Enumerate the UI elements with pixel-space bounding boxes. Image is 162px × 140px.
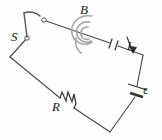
wire-tick-left bbox=[109, 39, 112, 48]
field-spiral-icon bbox=[72, 16, 92, 53]
battery-short-plate bbox=[130, 93, 143, 97]
switch-lever-blade bbox=[24, 13, 27, 37]
resistor-label: R bbox=[52, 100, 60, 113]
switch-label: S bbox=[11, 30, 18, 43]
wire-right-upper-segment bbox=[137, 55, 143, 86]
switch-open-icon[interactable] bbox=[24, 12, 46, 40]
resistor-zigzag-icon bbox=[60, 92, 76, 108]
magnetic-field-label: B bbox=[80, 3, 88, 16]
switch-contact-terminal bbox=[42, 18, 46, 22]
current-label: I bbox=[127, 40, 131, 52]
switch-lever-tip bbox=[24, 12, 40, 16]
circuit-diagram: B S I R ε bbox=[0, 0, 162, 140]
circuit-schematic-canvas bbox=[0, 0, 162, 140]
wire-bottom-left-segment bbox=[10, 57, 60, 98]
wire-top-left-segment bbox=[46, 21, 110, 43]
wire-crossing-marks bbox=[109, 39, 118, 50]
resistor-body bbox=[60, 92, 76, 108]
wire-tick-right bbox=[115, 41, 118, 50]
emf-label: ε bbox=[143, 84, 148, 96]
wire-right-lower-segment bbox=[110, 97, 135, 132]
wire-bottom-right-segment bbox=[74, 108, 110, 132]
